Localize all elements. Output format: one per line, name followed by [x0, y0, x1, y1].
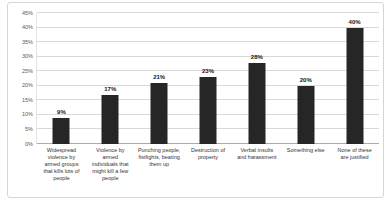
y-axis-tick-label: 15%	[22, 98, 33, 104]
y-axis: 0%5%10%15%20%25%30%35%40%45%	[12, 13, 36, 144]
bar	[200, 77, 217, 144]
plot-area: 9%17%21%23%28%20%40%	[36, 13, 379, 144]
chart-body: 0%5%10%15%20%25%30%35%40%45% 9%17%21%23%…	[12, 13, 379, 144]
bar	[151, 83, 168, 144]
bars: 9%17%21%23%28%20%40%	[37, 13, 379, 144]
category-label: Widespread violence by armed groups that…	[37, 147, 86, 182]
chart-frame: 0%5%10%15%20%25%30%35%40%45% 9%17%21%23%…	[7, 2, 384, 198]
y-axis-tick-label: 40%	[22, 25, 33, 31]
y-axis-tick-label: 35%	[22, 39, 33, 45]
category-labels: Widespread violence by armed groups that…	[37, 147, 379, 182]
category-label: Violence by armed individuals that might…	[86, 147, 135, 182]
bar	[248, 63, 265, 145]
y-axis-tick-label: 5%	[25, 127, 33, 133]
category-label: None of these are justified	[330, 147, 379, 182]
bar-column: 23%	[184, 13, 233, 144]
bar-column: 40%	[330, 13, 379, 144]
category-label: Punching people, fistfights, beating the…	[135, 147, 184, 182]
y-axis-tick-label: 20%	[22, 83, 33, 89]
y-axis-tick-label: 45%	[22, 10, 33, 16]
bar	[346, 28, 363, 144]
category-label: Destruction of property	[184, 147, 233, 182]
bar	[102, 95, 119, 144]
y-axis-tick-label: 25%	[22, 68, 33, 74]
category-label: Something else	[281, 147, 330, 182]
bar-column: 20%	[281, 13, 330, 144]
y-axis-tick-label: 0%	[25, 141, 33, 147]
y-axis-tick-label: 30%	[22, 54, 33, 60]
bar	[53, 118, 70, 144]
bar-column: 21%	[135, 13, 184, 144]
chart-image: 0%5%10%15%20%25%30%35%40%45% 9%17%21%23%…	[0, 0, 389, 205]
bar	[297, 86, 314, 144]
bar-column: 9%	[37, 13, 86, 144]
category-label: Verbal insults and harassment	[232, 147, 281, 182]
bar-value-label: 40%	[320, 19, 389, 26]
